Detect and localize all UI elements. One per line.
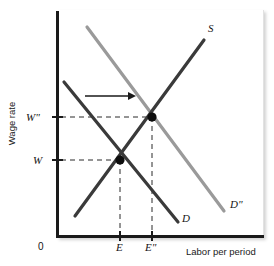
- equilibrium-dot-initial: [115, 155, 124, 164]
- tick-label-employment-low: E: [116, 241, 123, 253]
- plot-canvas: [0, 0, 274, 266]
- x-axis-title: Labor per period: [186, 246, 256, 257]
- tick-label-wage-high: W": [26, 111, 40, 123]
- equilibrium-dot-new: [147, 112, 156, 121]
- supply-demand-figure: Wage rate Labor per period 0 W" W E E" S…: [0, 0, 274, 266]
- tick-label-wage-low: W: [33, 154, 42, 166]
- tick-label-employment-high: E": [145, 241, 156, 253]
- supply-curve-label: S: [208, 22, 214, 34]
- y-axis-title: Wage rate: [6, 89, 17, 159]
- demand-shifted-curve-label: D": [230, 198, 243, 210]
- origin-label: 0: [38, 241, 44, 252]
- supply-curve: [75, 40, 204, 216]
- demand-initial-curve-label: D: [182, 212, 190, 224]
